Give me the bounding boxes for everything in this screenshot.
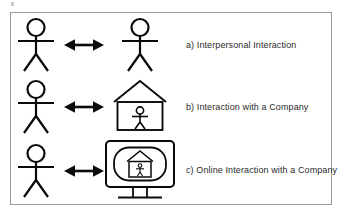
double-headed-arrow-icon: [62, 76, 106, 138]
diagram-row-b: b) Interaction with a Company: [10, 76, 332, 138]
row-label-a-container: a) Interpersonal Interaction: [174, 14, 332, 76]
scan-artifact: [11, 2, 14, 6]
diagram-row-c: c) Online Interaction with a Company: [10, 138, 332, 203]
row-label-b: b) Interaction with a Company: [186, 102, 308, 113]
stick-figure-person-icon: [10, 14, 62, 76]
double-headed-arrow-icon: [62, 138, 106, 203]
row-label-b-container: b) Interaction with a Company: [174, 76, 332, 138]
row-label-c-container: c) Online Interaction with a Company: [174, 138, 337, 203]
diagram-rows: a) Interpersonal Interaction: [10, 12, 332, 205]
stick-figure-person-icon: [106, 14, 174, 76]
computer-monitor-with-house-and-person-icon: [106, 138, 174, 203]
stick-figure-person-icon: [10, 138, 62, 203]
figure-root: a) Interpersonal Interaction: [0, 0, 344, 218]
double-headed-arrow-icon: [62, 14, 106, 76]
stick-figure-person-icon: [10, 76, 62, 138]
house-with-person-icon: [106, 76, 174, 138]
diagram-row-a: a) Interpersonal Interaction: [10, 14, 332, 76]
row-label-a: a) Interpersonal Interaction: [186, 40, 296, 51]
row-label-c: c) Online Interaction with a Company: [186, 165, 337, 176]
